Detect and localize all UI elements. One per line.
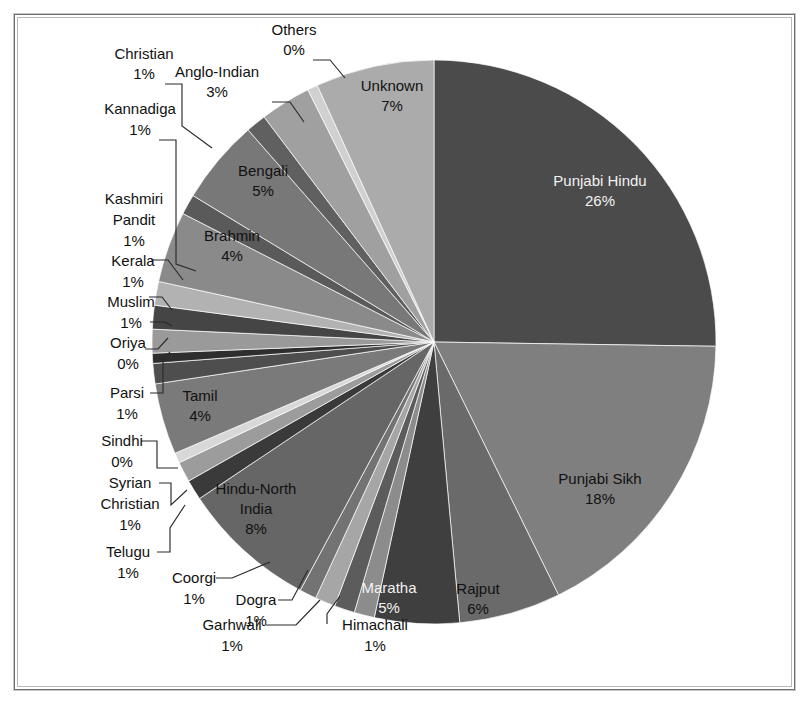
callout-syrian-christian: Syrian Christian 1%	[100, 474, 159, 533]
callout-syrian-christian-pct: 1%	[119, 516, 141, 533]
callout-telugu-name: Telugu	[106, 543, 150, 560]
callout-anglo-indian-name: Anglo-Indian	[175, 63, 259, 80]
callout-kashmiri-pandit-name1: Kashmiri	[105, 190, 163, 207]
callout-kannadiga-pct: 1%	[129, 121, 151, 138]
callout-muslim-pct: 1%	[120, 314, 142, 331]
slice-label-brahmin-name: Brahmin	[204, 227, 260, 244]
slice-label-hindu-north-india-name2: India	[240, 500, 273, 517]
callout-coorgi-name: Coorgi	[172, 569, 216, 586]
callout-coorgi-pct: 1%	[183, 590, 205, 607]
slice-label-rajput-name: Rajput	[456, 580, 500, 597]
callout-sindhi-name: Sindhi	[101, 432, 143, 449]
slice-label-punjabi-hindu-pct: 26%	[585, 192, 615, 209]
callout-oriya: Oriya 0%	[110, 334, 146, 372]
callout-oriya-pct: 0%	[117, 355, 139, 372]
slice-label-unknown-name: Unknown	[361, 77, 424, 94]
callout-sindhi-pct: 0%	[111, 453, 133, 470]
callout-parsi-pct: 1%	[116, 405, 138, 422]
callout-kashmiri-pandit: Kashmiri Pandit 1%	[105, 190, 163, 249]
slice-label-tamil-name: Tamil	[182, 387, 217, 404]
callout-himachali: Himachali 1%	[342, 616, 408, 654]
callout-coorgi: Coorgi 1%	[172, 569, 216, 607]
callout-muslim-name: Muslim	[107, 293, 155, 310]
pie-slice-punjabi-hindu[interactable]	[434, 60, 716, 346]
callout-garhwali-name: Garhwali	[202, 616, 261, 633]
pie-chart: Punjabi Hindu 26% Punjabi Sikh 18% Rajpu…	[0, 0, 810, 716]
callout-others-pct: 0%	[283, 41, 305, 58]
callout-kerala: Kerala 1%	[111, 252, 155, 290]
slice-label-brahmin-pct: 4%	[221, 247, 243, 264]
callout-parsi-name: Parsi	[110, 384, 144, 401]
slice-label-bengali-name: Bengali	[238, 162, 288, 179]
callout-kashmiri-pandit-name2: Pandit	[113, 211, 156, 228]
callout-anglo-indian-pct: 3%	[206, 83, 228, 100]
callout-garhwali: Garhwali 1%	[202, 616, 261, 654]
callout-christian: Christian 1%	[114, 45, 173, 82]
slice-label-rajput-pct: 6%	[467, 600, 489, 617]
callout-telugu: Telugu 1%	[106, 543, 150, 581]
callout-kerala-pct: 1%	[122, 273, 144, 290]
slice-label-hindu-north-india-name1: Hindu-North	[216, 480, 297, 497]
leader-others	[313, 60, 345, 78]
callout-muslim: Muslim 1%	[107, 293, 155, 331]
leader-syrian-christian	[159, 483, 187, 505]
callout-christian-name: Christian	[114, 45, 173, 62]
callout-oriya-name: Oriya	[110, 334, 146, 351]
callout-syrian-christian-name2: Christian	[100, 495, 159, 512]
callout-syrian-christian-name1: Syrian	[109, 474, 152, 491]
slice-label-tamil-pct: 4%	[189, 407, 211, 424]
callout-himachali-name: Himachali	[342, 616, 408, 633]
slice-label-punjabi-hindu-name: Punjabi Hindu	[553, 172, 646, 189]
callout-kerala-name: Kerala	[111, 252, 155, 269]
leader-telugu	[157, 505, 185, 552]
slice-label-bengali-pct: 5%	[252, 182, 274, 199]
callout-christian-pct: 1%	[133, 65, 155, 82]
slice-label-punjabi-sikh-pct: 18%	[585, 490, 615, 507]
slice-label-maratha-name: Maratha	[361, 579, 417, 596]
callout-dogra-name: Dogra	[236, 591, 278, 608]
chart-page: Punjabi Hindu 26% Punjabi Sikh 18% Rajpu…	[0, 0, 810, 716]
slice-label-unknown-pct: 7%	[381, 97, 403, 114]
callout-parsi: Parsi 1%	[110, 384, 144, 422]
callout-garhwali-pct: 1%	[221, 637, 243, 654]
slice-label-hindu-north-india-pct: 8%	[245, 520, 267, 537]
callout-kannadiga-name: Kannadiga	[104, 100, 176, 117]
callout-others-name: Others	[271, 21, 316, 38]
callout-kannadiga: Kannadiga 1%	[104, 100, 176, 138]
callout-himachali-pct: 1%	[364, 637, 386, 654]
pie-slice-group	[152, 60, 716, 624]
callout-sindhi: Sindhi 0%	[101, 432, 143, 470]
callout-kashmiri-pandit-pct: 1%	[123, 232, 145, 249]
callout-anglo-indian: Anglo-Indian 3%	[175, 63, 259, 100]
callout-others: Others 0%	[271, 21, 316, 58]
slice-label-punjabi-sikh-name: Punjabi Sikh	[558, 470, 641, 487]
callout-telugu-pct: 1%	[117, 564, 139, 581]
slice-label-maratha-pct: 5%	[378, 599, 400, 616]
